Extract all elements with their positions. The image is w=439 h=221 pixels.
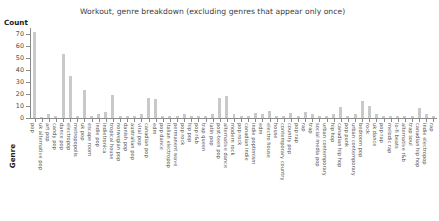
bar — [111, 95, 114, 118]
x-tick-mark — [291, 119, 292, 122]
x-tick-mark — [106, 119, 107, 122]
x-tick-label: social media pop — [315, 123, 321, 167]
x-tick-label: urban contemporary — [322, 123, 328, 176]
y-tick-label: 0 — [6, 114, 24, 122]
bar — [233, 114, 236, 118]
y-tick-label: 50 — [6, 54, 24, 62]
bar — [354, 114, 357, 118]
bar — [275, 116, 278, 118]
bar — [161, 116, 164, 118]
bar — [168, 116, 171, 118]
bar — [69, 76, 72, 118]
y-tick-label: 10 — [6, 102, 24, 110]
bar — [425, 114, 428, 118]
x-tick-label: trap — [308, 123, 314, 134]
bar — [254, 113, 257, 118]
x-tick-mark — [262, 119, 263, 122]
x-tick-mark — [213, 119, 214, 122]
bar — [247, 116, 250, 118]
bar — [190, 116, 193, 118]
bar — [83, 90, 86, 118]
x-tick-label: hip hop — [330, 123, 336, 142]
bar — [332, 114, 335, 118]
y-tick-mark — [26, 34, 30, 35]
x-tick-label: candy pop — [52, 123, 58, 150]
x-tick-mark — [70, 119, 71, 122]
bar — [119, 116, 122, 118]
x-tick-mark — [391, 119, 392, 122]
bar — [225, 96, 228, 118]
x-tick-mark — [248, 119, 249, 122]
x-tick-mark — [376, 119, 377, 122]
x-tick-label: metropopolis — [73, 123, 79, 157]
bar — [261, 114, 264, 118]
x-tick-label: uk alternative pop — [38, 123, 44, 170]
x-tick-label: house — [273, 123, 279, 138]
y-tick-mark — [26, 82, 30, 83]
x-tick-label: modern rock — [230, 123, 236, 155]
x-tick-mark — [270, 119, 271, 122]
x-tick-label: trap queen — [201, 123, 207, 151]
x-tick-label: melodic rap — [387, 123, 393, 153]
x-tick-label: indie pop — [95, 123, 101, 147]
x-tick-mark — [220, 119, 221, 122]
x-tick-label: uk dance — [372, 123, 378, 146]
x-tick-label: pop — [30, 123, 36, 133]
bar — [140, 114, 143, 118]
bar — [211, 114, 214, 118]
bar — [368, 106, 371, 118]
x-tick-label: alternative r&b — [401, 123, 407, 162]
bar — [382, 116, 385, 118]
x-tick-mark — [319, 119, 320, 122]
x-tick-mark — [63, 119, 64, 122]
x-tick-mark — [362, 119, 363, 122]
y-tick-mark — [26, 46, 30, 47]
bar — [33, 32, 36, 118]
x-axis-tick-labels: popuk alternative popart popcandy popdan… — [31, 123, 437, 218]
bar-chart: Workout, genre breakdown (excluding genr… — [0, 0, 439, 221]
bar — [97, 114, 100, 118]
x-tick-mark — [184, 119, 185, 122]
bar — [90, 116, 93, 118]
x-tick-label: viral pop — [137, 123, 143, 145]
y-tick-mark — [26, 118, 30, 119]
x-tick-mark — [369, 119, 370, 122]
x-tick-mark — [163, 119, 164, 122]
bar — [133, 116, 136, 118]
bar — [361, 101, 364, 118]
x-tick-label: pop rock — [237, 123, 243, 145]
x-tick-mark — [255, 119, 256, 122]
x-tick-mark — [127, 119, 128, 122]
x-tick-label: rap — [429, 123, 435, 132]
x-tick-mark — [426, 119, 427, 122]
x-tick-label: bedroom pop — [358, 123, 364, 157]
x-tick-mark — [341, 119, 342, 122]
x-tick-mark — [298, 119, 299, 122]
x-tick-mark — [433, 119, 434, 122]
x-tick-label: indie electropop — [422, 123, 428, 165]
x-tick-label: edm — [258, 123, 264, 134]
bar — [47, 114, 50, 118]
x-tick-label: canadian hip hop — [337, 123, 343, 167]
x-tick-label: escape room — [87, 123, 93, 156]
x-tick-mark — [234, 119, 235, 122]
x-tick-mark — [384, 119, 385, 122]
chart-title: Workout, genre breakdown (excluding genr… — [80, 7, 380, 16]
bar — [375, 114, 378, 118]
x-tick-label: pop rock — [180, 123, 186, 145]
x-tick-mark — [42, 119, 43, 122]
bar — [126, 116, 129, 118]
bar — [62, 54, 65, 118]
bar — [311, 114, 314, 118]
bar — [218, 98, 221, 118]
x-tick-label: uk pop — [80, 123, 86, 141]
y-tick-label: 60 — [6, 42, 24, 50]
bar — [282, 116, 285, 118]
bar — [411, 116, 414, 118]
bar — [418, 108, 421, 118]
bar — [339, 107, 342, 118]
x-tick-label: urban contemporary — [351, 123, 357, 176]
y-tick-label: 70 — [6, 30, 24, 38]
bar — [289, 113, 292, 118]
x-tick-mark — [92, 119, 93, 122]
